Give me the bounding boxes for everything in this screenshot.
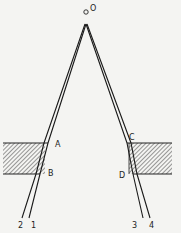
label-ray-4: 4	[149, 221, 154, 230]
ray-diagram: O A B C D 2 1 3 4	[0, 0, 181, 233]
label-C: C	[129, 133, 135, 142]
label-ray-1: 1	[31, 221, 36, 230]
right-slab	[129, 143, 172, 174]
ray-1	[29, 24, 86, 218]
label-ray-3: 3	[132, 221, 137, 230]
label-ray-2: 2	[18, 221, 23, 230]
ray-3	[86, 24, 143, 218]
source-point-icon	[84, 10, 88, 14]
left-slab	[3, 143, 45, 174]
label-O: O	[90, 4, 96, 13]
label-A: A	[55, 140, 61, 149]
ray-2	[22, 24, 85, 218]
label-B: B	[48, 169, 54, 178]
label-D: D	[119, 171, 125, 180]
